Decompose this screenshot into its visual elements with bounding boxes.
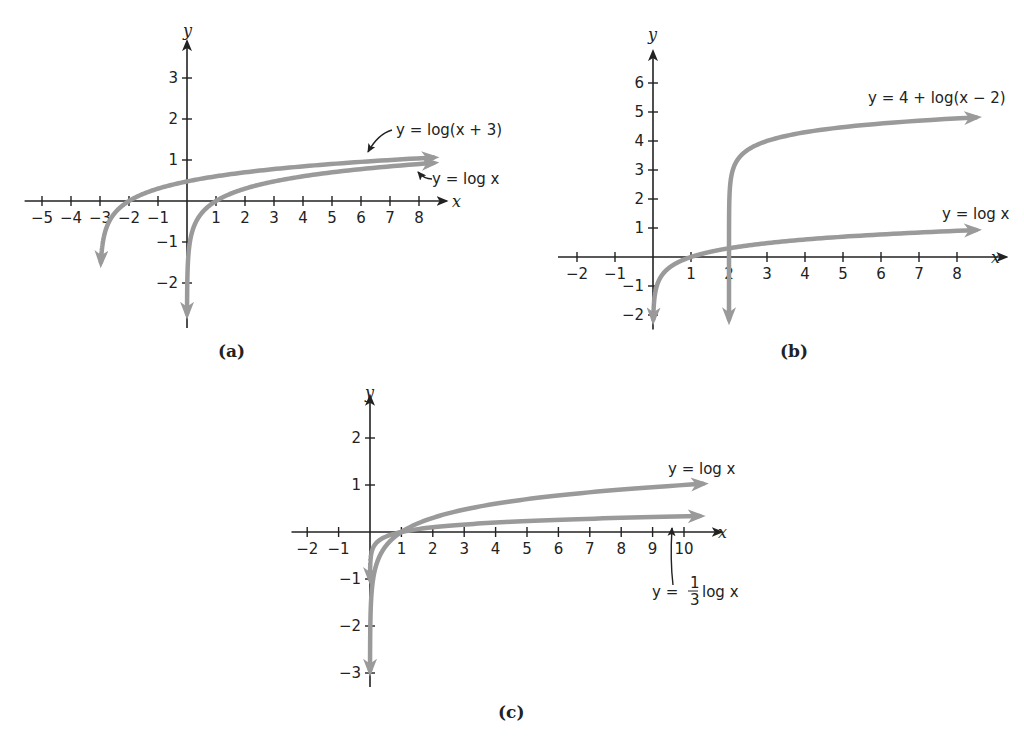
x-tick-label: 8 [952, 265, 962, 283]
x-tick-label: 6 [876, 265, 886, 283]
curve-1 [370, 484, 703, 671]
x-tick-label: 4 [800, 265, 810, 283]
y-tick-label: −1 [156, 233, 178, 251]
graph-c-y-axis-label: y [364, 383, 375, 402]
x-tick-label: 8 [616, 540, 626, 558]
x-tick-label: 7 [385, 209, 395, 227]
graph-c-caption: (c) [498, 702, 524, 722]
y-tick-label: −2 [156, 274, 178, 292]
x-tick-label: 1 [211, 209, 221, 227]
x-tick-label: 2 [428, 540, 438, 558]
graph-c-eq-fraction-denominator: 3 [690, 591, 700, 609]
x-tick-label: 3 [269, 209, 279, 227]
graph-a-callout-arrow-2 [418, 172, 432, 179]
graph-c: −2−112345678910−3−2−112 [292, 396, 722, 687]
y-tick-label: 6 [634, 74, 644, 92]
y-tick-label: 1 [351, 476, 361, 494]
x-tick-label: 8 [414, 209, 424, 227]
x-tick-label: 5 [838, 265, 848, 283]
graph-c-eq-log-x: y = log x [668, 460, 736, 478]
graph-c-callout-arrow [671, 528, 673, 585]
graph-a-callout-arrow-1 [368, 130, 392, 152]
y-tick-label: −2 [622, 306, 644, 324]
graph-c-eq-third-log-x-prefix: y = [652, 583, 678, 601]
x-tick-label: 3 [762, 265, 772, 283]
curve-2 [187, 163, 433, 314]
curve-2 [653, 230, 976, 319]
x-tick-label: 5 [327, 209, 337, 227]
y-tick-label: 3 [168, 69, 178, 87]
graph-c-eq-fraction-numerator: 1 [690, 574, 700, 592]
x-tick-label: 7 [914, 265, 924, 283]
x-tick-label: 3 [459, 540, 469, 558]
x-tick-label: 4 [491, 540, 501, 558]
x-tick-label: 7 [585, 540, 595, 558]
graph-a-eq-log-x-plus-3: y = log(x + 3) [396, 121, 502, 139]
x-tick-label: −2 [566, 265, 588, 283]
graph-b-eq-log-x: y = log x [942, 205, 1010, 223]
x-tick-label: −2 [118, 209, 140, 227]
x-tick-label: 2 [240, 209, 250, 227]
x-tick-label: 6 [356, 209, 366, 227]
y-tick-label: 1 [168, 151, 178, 169]
y-tick-label: 2 [168, 110, 178, 128]
x-tick-label: −2 [296, 540, 318, 558]
x-tick-label: 1 [686, 265, 696, 283]
y-tick-label: −3 [339, 664, 361, 682]
x-tick-label: −5 [31, 209, 53, 227]
curve-1 [729, 117, 976, 319]
graph-a-x-axis-label: x [452, 192, 461, 211]
x-tick-label: −4 [60, 209, 82, 227]
x-tick-label: 5 [522, 540, 532, 558]
graph-a-caption: (a) [218, 341, 245, 361]
graph-a-eq-log-x: y = log x [432, 170, 500, 188]
y-tick-label: 1 [634, 219, 644, 237]
graph-b-caption: (b) [780, 341, 808, 361]
graph-c-x-axis-label: x [718, 523, 727, 542]
graph-b-y-axis-label: y [647, 25, 658, 44]
y-tick-label: −1 [339, 570, 361, 588]
x-tick-label: 6 [554, 540, 564, 558]
x-tick-label: 9 [648, 540, 658, 558]
x-tick-label: 1 [397, 540, 407, 558]
figure-canvas: −5−4−3−2−112345678−2−1123 y x y = log(x … [0, 0, 1024, 739]
y-tick-label: −2 [339, 617, 361, 635]
graph-a-y-axis-label: y [182, 21, 193, 40]
y-tick-label: −1 [622, 277, 644, 295]
y-tick-label: 4 [634, 132, 644, 150]
graph-b-x-axis-label: x [991, 248, 1000, 267]
graph-a: −5−4−3−2−112345678−2−1123 [25, 41, 447, 328]
y-tick-label: 2 [351, 429, 361, 447]
x-tick-label: −1 [328, 540, 350, 558]
x-tick-label: 10 [674, 540, 693, 558]
y-tick-label: 2 [634, 190, 644, 208]
graph-c-eq-third-log-x-suffix: log x [702, 583, 739, 601]
y-tick-label: 5 [634, 103, 644, 121]
x-tick-label: 4 [298, 209, 308, 227]
y-tick-label: 3 [634, 161, 644, 179]
graph-b-eq-shifted-log: y = 4 + log(x − 2) [868, 89, 1006, 107]
x-tick-label: −1 [147, 209, 169, 227]
